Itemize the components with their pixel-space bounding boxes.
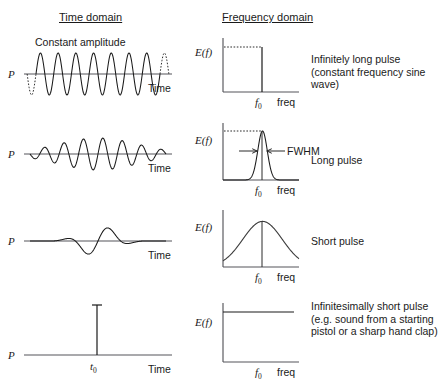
x-tick-t-zero: t0 [90,360,97,375]
waveform-dashed-end [160,53,169,74]
axis-label-time: Time [148,162,171,174]
x-tick-f-zero: f0 [255,184,262,199]
constant-amplitude-label: Constant amplitude [35,36,126,48]
time-domain-panel: P Time [0,205,195,290]
axis-label-energy: E(f) [194,221,212,234]
axis-label-power: P [7,68,15,80]
time-domain-panel: Constant amplitude P Time [0,30,195,118]
spectrum-gaussian-broad [223,221,299,260]
axis-label-freq: freq [277,366,295,378]
figure-root: Time domain Frequency domain Constant am… [0,0,448,389]
axis-label-energy: E(f) [194,316,212,329]
axis-label-time: Time [148,363,171,375]
waveform-short-pulse [30,228,166,254]
fwhm-arrow-right [267,149,285,153]
row-caption: Long pulse [311,154,445,167]
frequency-domain-plot: E(f) f0 freq [195,30,305,118]
axis-label-power: P [7,148,15,160]
axis-label-freq: freq [277,96,295,108]
frequency-domain-panel: E(f) f0 freq [195,290,305,389]
time-domain-plot: Constant amplitude P Time [0,30,195,118]
row-caption: Short pulse [311,235,445,248]
diagram-row-long-pulse: P Time E(f) [0,118,448,206]
axis-label-power: P [7,235,15,247]
axis-label-time: Time [148,249,171,261]
frequency-domain-plot: E(f) f0 freq [195,290,305,389]
row-caption: Infinitesimally short pulse (e.g. sound … [311,300,445,338]
axis-label-energy: E(f) [194,134,212,147]
x-tick-f-zero: f0 [255,366,262,381]
fwhm-arrow-left [239,149,257,153]
axis-label-time: Time [148,82,171,94]
frequency-domain-panel: E(f) FWHM f0 freq [195,118,305,206]
column-header-frequency-domain: Frequency domain [222,11,313,23]
time-domain-plot: P t0 Time [0,290,195,389]
x-tick-f-zero: f0 [255,96,262,111]
time-domain-panel: P t0 Time [0,290,195,389]
waveform-dashed-start [27,74,36,95]
time-domain-panel: P Time [0,118,195,206]
axis-label-freq: freq [277,271,295,283]
row-caption: Infinitely long pulse (constant frequenc… [311,53,445,91]
frequency-domain-plot: E(f) FWHM f0 freq [195,118,305,206]
frequency-domain-panel: E(f) f0 freq [195,30,305,118]
frequency-domain-panel: E(f) f0 freq [195,205,305,290]
x-tick-f-zero: f0 [255,271,262,286]
diagram-row-infinitely-long-pulse: Constant amplitude P Time E(f) f0 freq I… [0,30,448,118]
frequency-domain-plot: E(f) f0 freq [195,205,305,290]
axis-label-power: P [7,349,15,361]
axis-label-energy: E(f) [194,46,212,59]
axis-label-freq: freq [277,184,295,196]
diagram-row-infinitesimally-short-pulse: P t0 Time E(f) f0 freq Infinitesimally s… [0,290,448,389]
diagram-row-short-pulse: P Time E(f) f0 freq Short pulse [0,205,448,290]
column-header-time-domain: Time domain [59,11,122,23]
time-domain-plot: P Time [0,118,195,206]
time-domain-plot: P Time [0,205,195,290]
